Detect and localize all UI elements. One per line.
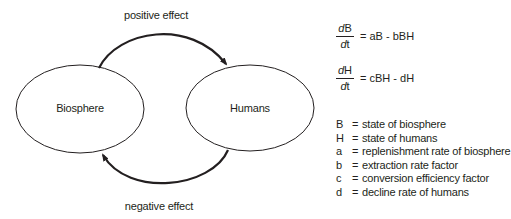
legend-symbol: a xyxy=(336,145,348,159)
legend-equals: = xyxy=(348,159,362,173)
equation-2-denominator: dt xyxy=(340,80,349,93)
legend-description: replenishment rate of biosphere xyxy=(362,145,511,159)
legend-symbol: H xyxy=(336,132,348,146)
legend-row: b = extraction rate factor xyxy=(336,159,511,173)
legend-equals: = xyxy=(348,118,362,132)
legend-description: decline rate of humans xyxy=(362,186,469,200)
legend-row: B = state of biosphere xyxy=(336,118,511,132)
legend-symbol: c xyxy=(336,172,348,186)
legend-symbol: B xyxy=(336,118,348,132)
legend-equals: = xyxy=(348,132,362,146)
fraction-bar xyxy=(336,78,354,79)
equation-1-fraction: dB dt xyxy=(335,22,355,51)
legend-symbol: b xyxy=(336,159,348,173)
legend-row: H = state of humans xyxy=(336,132,511,146)
legend-row: d = decline rate of humans xyxy=(336,186,511,200)
legend-row: c = conversion efficiency factor xyxy=(336,172,511,186)
positive-effect-label: positive effect xyxy=(124,9,188,21)
negative-effect-label: negative effect xyxy=(125,200,193,212)
biosphere-label: Biosphere xyxy=(56,102,104,114)
equation-1-denominator: dt xyxy=(340,38,349,51)
humans-label: Humans xyxy=(230,102,270,114)
legend-description: state of humans xyxy=(362,132,437,146)
equation-1-numerator: dB xyxy=(338,22,351,35)
equation-2-rhs: = cBH - dH xyxy=(360,72,414,84)
positive-effect-arrow xyxy=(99,34,226,68)
legend-description: extraction rate factor xyxy=(362,159,458,173)
equation-1-rhs: = aB - bBH xyxy=(360,30,414,42)
equation-2-numerator: dH xyxy=(338,64,352,77)
legend-equals: = xyxy=(348,145,362,159)
legend-equals: = xyxy=(348,186,362,200)
variable-legend: B = state of biosphere H = state of huma… xyxy=(336,118,511,200)
legend-description: state of biosphere xyxy=(362,118,446,132)
fraction-bar xyxy=(336,36,354,37)
equation-2-fraction: dH dt xyxy=(335,64,355,93)
legend-symbol: d xyxy=(336,186,348,200)
legend-description: conversion efficiency factor xyxy=(362,172,489,186)
legend-equals: = xyxy=(348,172,362,186)
legend-row: a = replenishment rate of biosphere xyxy=(336,145,511,159)
negative-effect-arrow xyxy=(103,150,228,183)
